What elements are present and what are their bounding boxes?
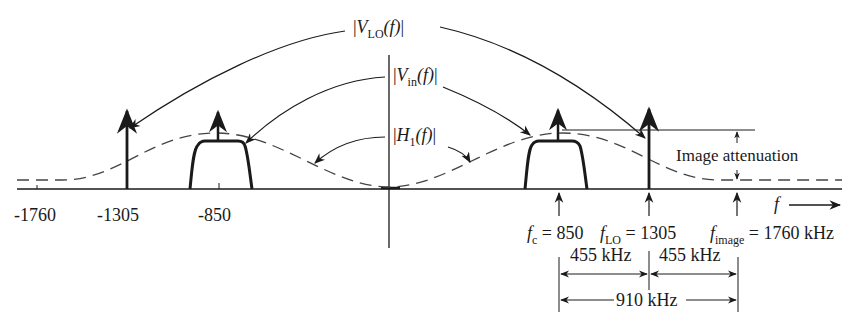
f-axis-label: f [774, 195, 779, 213]
fc-label: fc = 850 [527, 224, 584, 242]
h1-leader-right [448, 147, 470, 162]
vin-leader-right [443, 87, 530, 135]
dim-span2-label: 455 kHz [659, 246, 721, 264]
flo-label: fLO = 1305 [600, 224, 676, 242]
image-attenuation-label: Image attenuation [676, 147, 798, 164]
superheterodyne-spectrum-diagram [0, 0, 864, 330]
dim-span1-label: 455 kHz [570, 246, 632, 264]
fimage-label: fimage = 1760 kHz [710, 224, 834, 242]
h1-label: |H1(f)| [393, 126, 436, 144]
vin-band-positive [525, 141, 587, 189]
vin-leader-left [246, 77, 385, 143]
vin-band-negative [190, 141, 252, 189]
vlo-leader-left [130, 31, 345, 128]
h1-leader-left [315, 137, 385, 163]
tick-label-minus-1760: -1760 [14, 206, 56, 224]
vin-label: |Vin(f)| [393, 66, 438, 84]
dim-total-label: 910 kHz [616, 291, 678, 309]
vlo-label: |VLO(f)| [353, 18, 404, 36]
vlo-leader-right [440, 27, 645, 138]
tick-label-minus-1305: -1305 [97, 206, 139, 224]
tick-label-minus-850: -850 [198, 206, 231, 224]
